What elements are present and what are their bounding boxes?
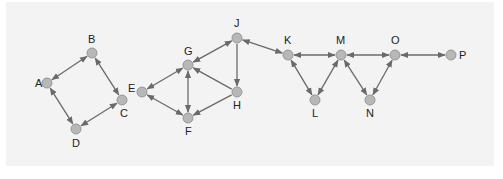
edge-n-o (373, 60, 392, 95)
node-circle (446, 50, 456, 60)
node-k: K (283, 34, 293, 60)
node-h: H (232, 87, 242, 111)
node-o: O (390, 34, 400, 60)
node-circle (365, 95, 375, 105)
node-label: P (459, 49, 466, 61)
node-j: J (232, 17, 242, 43)
nodes-layer: ABCDEGFHJKLMNOP (35, 17, 466, 149)
edge-e-g (147, 68, 183, 89)
edges-layer (50, 40, 445, 126)
node-circle (336, 50, 346, 60)
node-circle (183, 60, 193, 70)
node-l: L (310, 95, 320, 119)
node-label: E (128, 82, 135, 94)
node-label: K (284, 34, 292, 46)
edge-m-n (344, 60, 366, 95)
node-circle (87, 48, 97, 58)
node-label: D (72, 137, 80, 149)
edge-k-l (291, 60, 312, 95)
node-label: L (312, 107, 318, 119)
edge-k-j (243, 40, 283, 53)
node-circle (137, 87, 147, 97)
node-circle (390, 50, 400, 60)
node-circle (183, 113, 193, 123)
edge-b-c (95, 58, 119, 95)
node-f: F (183, 113, 193, 137)
edge-a-d (50, 88, 73, 124)
node-label: H (233, 99, 241, 111)
node-label: N (366, 107, 374, 119)
edge-a-b (52, 56, 87, 79)
node-p: P (446, 49, 466, 61)
node-label: G (184, 45, 193, 57)
node-e: E (128, 82, 147, 97)
node-circle (310, 95, 320, 105)
node-label: A (35, 77, 43, 89)
edge-h-f (193, 95, 231, 115)
node-circle (232, 87, 242, 97)
node-c: C (117, 95, 128, 119)
edge-j-g (193, 41, 231, 62)
node-b: B (87, 33, 97, 58)
node-circle (42, 78, 52, 88)
edge-h-g (193, 68, 231, 89)
node-m: M (336, 34, 346, 60)
node-d: D (71, 124, 81, 149)
node-label: F (185, 125, 192, 137)
node-circle (71, 124, 81, 134)
edge-l-m (318, 60, 338, 95)
node-circle (232, 33, 242, 43)
node-a: A (35, 77, 52, 89)
node-label: C (120, 107, 128, 119)
node-circle (117, 95, 127, 105)
edge-c-d (81, 103, 117, 126)
node-circle (283, 50, 293, 60)
node-label: B (88, 33, 95, 45)
graph-canvas: ABCDEGFHJKLMNOP (0, 0, 503, 179)
node-n: N (365, 95, 375, 119)
node-label: O (391, 34, 400, 46)
node-label: J (234, 17, 240, 29)
node-label: M (336, 34, 345, 46)
node-g: G (183, 45, 193, 70)
edge-e-f (147, 95, 183, 115)
